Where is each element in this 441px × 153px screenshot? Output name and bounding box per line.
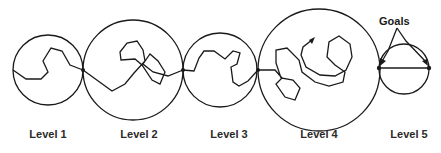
connection-dot-2-3	[181, 68, 185, 72]
level-1-path	[13, 48, 83, 79]
level-5-label: Level 5	[390, 128, 427, 140]
connection-dot-3-4	[256, 68, 260, 72]
level-4-circle	[258, 9, 380, 131]
level-1-label: Level 1	[29, 128, 66, 140]
level-1-circle	[13, 35, 83, 105]
level-2-label: Level 2	[120, 128, 157, 140]
level-4-arrowhead-icon	[309, 37, 315, 44]
goals-label: Goals	[379, 15, 410, 27]
level-4-label: Level 4	[300, 128, 337, 140]
level-2-circle	[83, 20, 183, 120]
connection-dot-1-2	[81, 68, 85, 72]
goal-dot-left	[377, 66, 381, 70]
level-4-path	[258, 36, 352, 100]
goal-dot-right	[427, 66, 431, 70]
level-3-path	[183, 51, 258, 86]
level-2-path	[83, 41, 183, 91]
goal-right-arrowhead-icon	[422, 59, 428, 66]
level-5-circle	[379, 44, 429, 94]
level-3-label: Level 3	[210, 128, 247, 140]
